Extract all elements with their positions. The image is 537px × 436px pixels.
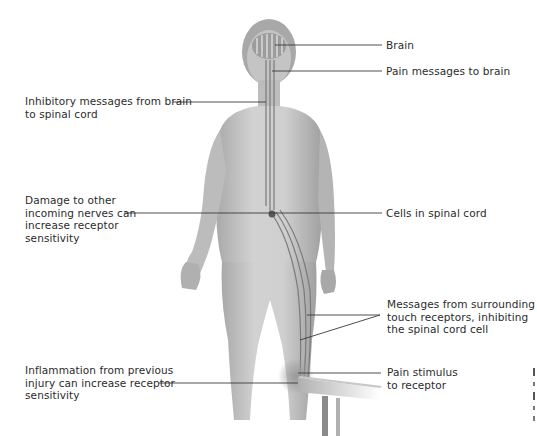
label-pain-messages-to-brain: Pain messages to brain: [386, 65, 510, 78]
label-line: sensitivity: [25, 232, 136, 245]
label-line: to receptor: [387, 379, 458, 392]
label-line: touch receptors, inhibiting: [387, 311, 535, 324]
label-line: Messages from surrounding: [387, 298, 535, 311]
label-line: injury can increase receptor: [25, 377, 175, 390]
label-line: Inflammation from previous: [25, 364, 175, 377]
label-damage-to-nerves: Damage to other incoming nerves can incr…: [25, 194, 136, 244]
body: [181, 19, 336, 420]
label-line: Damage to other: [25, 194, 136, 207]
label-line: the spinal cord cell: [387, 323, 535, 336]
brain: [252, 33, 286, 59]
label-touch-receptor-messages: Messages from surrounding touch receptor…: [387, 298, 535, 336]
label-line: to spinal cord: [25, 108, 192, 121]
label-line: incoming nerves can: [25, 207, 136, 220]
label-cells-in-spinal-cord: Cells in spinal cord: [386, 207, 487, 220]
label-inhibitory-messages: Inhibitory messages from brain to spinal…: [25, 95, 192, 120]
cropped-edge-marks: [531, 368, 537, 428]
label-inflammation: Inflammation from previous injury can in…: [25, 364, 175, 402]
label-line: sensitivity: [25, 389, 175, 402]
label-pain-stimulus: Pain stimulus to receptor: [387, 366, 458, 391]
label-brain: Brain: [386, 39, 414, 52]
label-line: Pain stimulus: [387, 366, 458, 379]
label-line: Inhibitory messages from brain: [25, 95, 192, 108]
label-line: increase receptor: [25, 219, 136, 232]
table: [298, 376, 382, 436]
